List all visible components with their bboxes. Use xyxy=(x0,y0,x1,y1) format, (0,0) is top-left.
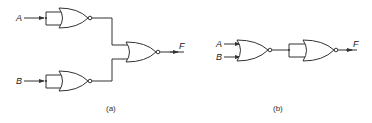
caption-a: (a) xyxy=(106,104,116,113)
nor-gate-a3 xyxy=(126,42,156,62)
tied-inputs-a2 xyxy=(46,75,62,88)
input-a-label: A xyxy=(15,13,22,23)
panel-a: A B F (a) xyxy=(15,8,185,113)
wire-a2-to-a3 xyxy=(92,59,130,81)
panel-b: A B F (b) xyxy=(215,39,359,113)
input-a-label-b: A xyxy=(215,39,222,49)
tied-inputs-a1 xyxy=(46,12,62,25)
wire-a1-to-a3 xyxy=(92,18,130,45)
inversion-bubble-b2 xyxy=(334,48,338,52)
inversion-bubble-a3 xyxy=(156,50,160,54)
nor-gate-b1 xyxy=(237,40,268,61)
inversion-bubble-b1 xyxy=(268,48,272,52)
logic-diagram: A B F (a) A B xyxy=(0,0,372,123)
input-b-label-b: B xyxy=(216,52,222,62)
tied-inputs-b2 xyxy=(289,44,306,57)
output-f-label: F xyxy=(179,41,185,51)
inversion-bubble-a1 xyxy=(88,16,92,20)
inversion-bubble-a2 xyxy=(88,79,92,83)
nor-gate-b2 xyxy=(303,40,334,61)
caption-b: (b) xyxy=(273,104,283,113)
output-f-label-b: F xyxy=(353,39,359,49)
nor-gate-a1 xyxy=(59,8,88,28)
nor-gate-a2 xyxy=(59,71,88,91)
input-b-label: B xyxy=(16,76,22,86)
